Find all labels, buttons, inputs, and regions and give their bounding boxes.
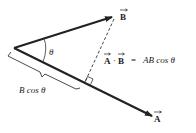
- vector-a-label: A: [154, 111, 162, 124]
- svg-text:B: B: [118, 56, 124, 66]
- dot-product-diagram: θ B A A · B = AB cos θ B cos θ: [0, 0, 196, 133]
- angle-theta-label: θ: [49, 47, 54, 57]
- svg-text:=: =: [131, 55, 136, 65]
- svg-text:AB cos θ: AB cos θ: [142, 55, 175, 65]
- vector-b-label: B: [120, 9, 128, 22]
- svg-text:B: B: [120, 12, 126, 22]
- vector-b-arrow: [14, 17, 112, 48]
- projection-label: B cos θ: [19, 85, 46, 95]
- svg-text:A: A: [154, 114, 161, 124]
- svg-text:·: ·: [113, 55, 116, 65]
- projection-dashed-line: [85, 19, 114, 82]
- dot-product-equation: A · B = AB cos θ: [104, 53, 175, 66]
- svg-text:A: A: [104, 56, 111, 66]
- angle-arc: [43, 39, 46, 63]
